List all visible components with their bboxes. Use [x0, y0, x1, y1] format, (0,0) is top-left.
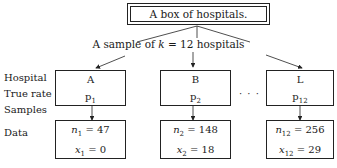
title-box: A box of hospitals.: [127, 3, 270, 25]
label-true-rate: True rate: [4, 88, 52, 99]
data-box-b: n2 = 148 x2 = 18: [160, 120, 231, 159]
hospital-box-b: B p2: [160, 70, 231, 106]
title-text: A box of hospitals.: [150, 8, 248, 20]
hospital-box-l: L p12: [266, 70, 334, 106]
label-samples: Samples: [4, 104, 47, 115]
ellipsis: · · ·: [239, 88, 260, 99]
data-box-a: n1 = 47 x1 = 0: [55, 120, 126, 159]
sample-label: A sample of k = 12 hospitals: [0, 38, 337, 50]
hospital-box-a: A p1: [55, 70, 126, 106]
label-data: Data: [4, 127, 28, 138]
label-hospital: Hospital: [4, 72, 47, 83]
data-box-l: n12 = 256 x12 = 29: [266, 120, 334, 159]
